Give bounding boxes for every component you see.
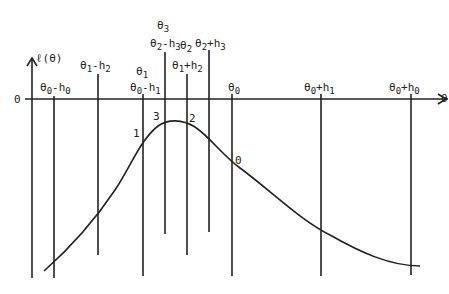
label-t0+h1: θ0+h1 [304,82,335,96]
curve-point-0: 0 [235,155,242,166]
origin-label: 0 [14,94,21,105]
label-t2-h3: θ2-h3 [150,38,181,52]
label-t2+h3: θ2+h3 [195,38,226,52]
label-t3: θ3 [157,20,169,34]
y-axis-label: ℓ(θ) [36,53,62,64]
likelihood-diagram: ℓ(θ) θ 0 θ0-h0 θ1-h2 θ1 θ0-h1 θ3 θ2-h3 θ… [0,0,449,294]
curve-point-3: 3 [153,111,160,122]
label-t1: θ1 [136,66,148,80]
label-t0-h0: θ0-h0 [40,82,71,96]
label-t0: θ0 [228,82,240,96]
label-t0-h1: θ0-h1 [130,82,161,96]
label-t2: θ2 [180,40,192,54]
label-t1-h2: θ1-h2 [80,60,111,74]
label-t1+h2: θ1+h2 [172,60,203,74]
x-axis-label: θ [441,93,448,104]
curve-point-1: 1 [133,128,140,139]
curve-point-2: 2 [189,113,196,124]
label-t0+h0: θ0+h0 [389,82,420,96]
